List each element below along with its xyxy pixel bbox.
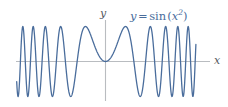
y-axis-label: y: [100, 8, 106, 19]
equation-equals-sign: =: [137, 9, 150, 23]
equation-label: y=sin (x2): [130, 9, 188, 23]
equation-close-paren: ): [183, 9, 188, 23]
x-axis-label: x: [214, 55, 220, 66]
chart-figure: y x y=sin (x2): [0, 0, 228, 107]
sine-squared-plot: [0, 0, 228, 107]
equation-sin-function: sin: [149, 9, 166, 23]
equation-y-symbol: y: [130, 9, 137, 23]
